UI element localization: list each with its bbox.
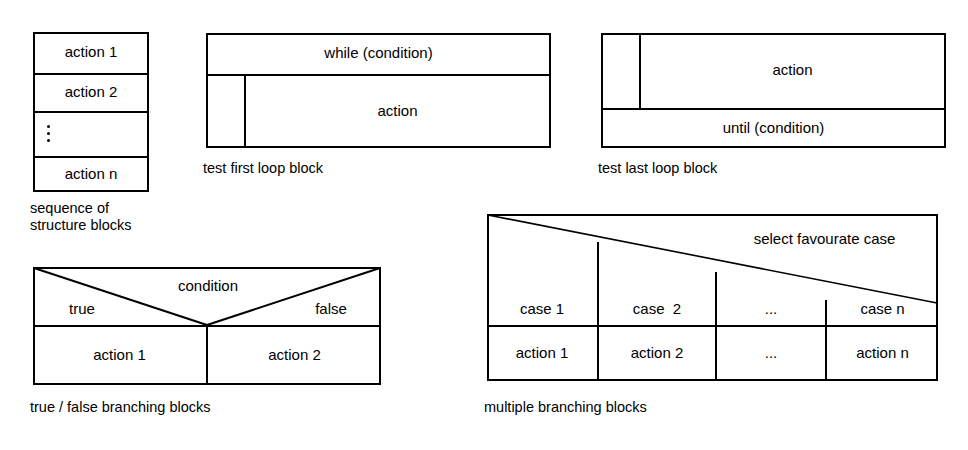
multi-branch-case-cell: case 2	[599, 294, 715, 325]
caption-sequence-line-2: structure blocks	[30, 217, 132, 234]
multi-branch-action-cell: action 1	[487, 325, 597, 381]
branching-false-cell: false	[295, 297, 367, 321]
branching-true-cell: true	[47, 297, 117, 321]
branching-false-action-label: action 2	[268, 347, 321, 364]
test-first-loop-body-cell: action	[244, 74, 551, 148]
test-last-loop-body-cell: action	[639, 33, 946, 108]
test-first-loop-body-label: action	[377, 103, 417, 120]
multi-branch-case-label: case n	[860, 301, 904, 318]
multi-branch-action-label: action 2	[631, 345, 684, 362]
sequence-row-label: action 1	[65, 44, 118, 61]
branching-true-label: true	[69, 301, 95, 318]
branching-condition-label: condition	[178, 278, 238, 295]
test-first-loop-condition-cell: while (condition)	[206, 33, 551, 74]
multi-branch-selector-cell: select favourate case	[717, 226, 932, 252]
branching-condition-cell: condition	[133, 273, 283, 299]
sequence-row-action-2: action 2	[33, 73, 149, 111]
vertical-ellipsis-icon	[47, 125, 50, 142]
figure-multiple-branching-blocks: select favourate case case 1 case 2 ... …	[487, 214, 938, 381]
sequence-row-label: action 2	[65, 84, 118, 101]
diagram-canvas: action 1 action 2 action n sequence of s…	[0, 0, 968, 450]
figure-true-false-branching-blocks: condition true false action 1 action 2	[33, 267, 381, 385]
multi-branch-case-label: ...	[765, 301, 778, 318]
sequence-row-label: action n	[65, 166, 118, 183]
figure-sequence-of-structure-blocks: action 1 action 2 action n	[33, 32, 149, 192]
multi-branch-action-label: action 1	[516, 345, 569, 362]
multi-branch-action-cell: action 2	[599, 325, 715, 381]
caption-true-false-branching-blocks: true / false branching blocks	[30, 399, 211, 416]
multi-branch-action-label: ...	[765, 345, 778, 362]
multi-branch-case-cell: case n	[827, 294, 938, 325]
multi-branch-case-label: case 1	[520, 301, 564, 318]
multi-branch-selector-label: select favourate case	[754, 231, 896, 248]
test-last-loop-condition-label: until (condition)	[723, 120, 825, 137]
branching-true-action-label: action 1	[93, 347, 146, 364]
multi-branch-action-cell: action n	[827, 325, 938, 381]
test-last-loop-body-label: action	[772, 62, 812, 79]
branching-false-action-cell: action 2	[208, 325, 381, 385]
test-last-loop-condition-cell: until (condition)	[601, 108, 946, 148]
sequence-row-action-n: action n	[33, 156, 149, 192]
branching-false-label: false	[315, 301, 347, 318]
multi-branch-case-cell: case 1	[487, 294, 597, 325]
branching-true-action-cell: action 1	[33, 325, 206, 385]
caption-test-last-loop-block: test last loop block	[598, 160, 717, 177]
multi-branch-action-label: action n	[856, 345, 909, 362]
multi-branch-case-cell: ...	[717, 294, 825, 325]
caption-multiple-branching-blocks: multiple branching blocks	[484, 399, 647, 416]
test-first-loop-condition-label: while (condition)	[324, 45, 432, 62]
sequence-row-ellipsis	[33, 111, 149, 156]
multi-branch-action-cell: ...	[717, 325, 825, 381]
caption-sequence-line-1: sequence of	[30, 200, 109, 217]
multi-branch-case-label: case 2	[633, 301, 681, 318]
sequence-row-action-1: action 1	[33, 32, 149, 73]
figure-test-first-loop-block: while (condition) action	[206, 33, 551, 148]
caption-test-first-loop-block: test first loop block	[203, 160, 323, 177]
figure-test-last-loop-block: action until (condition)	[601, 33, 946, 148]
